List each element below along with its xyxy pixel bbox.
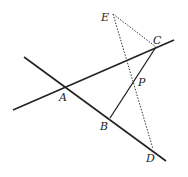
label-C: C — [153, 34, 162, 47]
label-E: E — [100, 11, 109, 24]
label-A: A — [58, 91, 67, 104]
segment-EC — [113, 14, 156, 47]
segment-ED — [113, 14, 153, 149]
line-AC — [13, 40, 174, 110]
diagram-canvas: E C P A B D — [0, 0, 188, 177]
label-D: D — [145, 152, 155, 165]
line-AB — [24, 57, 166, 161]
label-P: P — [137, 76, 146, 89]
label-B: B — [99, 120, 108, 133]
geometry-diagram: E C P A B D — [0, 0, 188, 177]
